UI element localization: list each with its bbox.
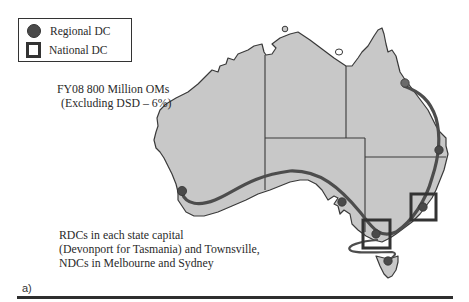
mainland-australia	[154, 28, 448, 242]
regional-dc-adelaide	[338, 198, 346, 206]
network-annotation: RDCs in each state capital (Devonport fo…	[59, 228, 260, 270]
regional-dc-townsville	[401, 79, 409, 87]
volume-annotation: FY08 800 Million OMs (Excluding DSD – 6%…	[57, 82, 171, 110]
network-annotation-line: RDCs in each state capital	[59, 228, 260, 242]
panel-label: a)	[22, 282, 32, 294]
bottom-rule	[17, 296, 453, 299]
volume-annotation-line: (Excluding DSD – 6%)	[57, 96, 171, 110]
island	[282, 26, 288, 32]
regional-dc-sydney	[419, 203, 427, 211]
network-annotation-line: NDCs in Melbourne and Sydney	[59, 256, 260, 270]
regional-dc-melbourne	[372, 230, 380, 238]
regional-dc-perth	[177, 186, 186, 195]
network-annotation-line: (Devonport for Tasmania) and Townsville,	[59, 242, 260, 256]
regional-dc-brisbane	[435, 146, 443, 154]
island	[335, 49, 342, 55]
volume-annotation-line: FY08 800 Million OMs	[57, 82, 171, 96]
regional-dc-devonport	[384, 257, 392, 265]
